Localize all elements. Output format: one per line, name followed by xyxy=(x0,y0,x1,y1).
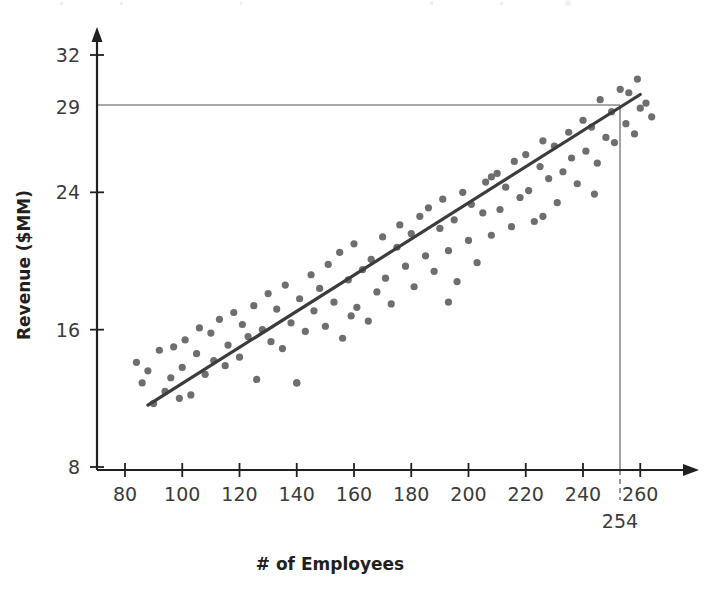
scatter-point xyxy=(488,232,495,239)
x-tick-label: 160 xyxy=(336,483,372,505)
scatter-point xyxy=(531,218,538,225)
scatter-point xyxy=(516,194,523,201)
scatter-point xyxy=(451,216,458,223)
scatter-point xyxy=(193,350,200,357)
x-tick-label: 140 xyxy=(279,483,315,505)
trend-line-segment xyxy=(148,94,640,405)
scatter-point xyxy=(545,175,552,182)
x-tick-label: 80 xyxy=(113,483,137,505)
scatter-point xyxy=(182,336,189,343)
scatter-point xyxy=(336,249,343,256)
page-scan-artifact xyxy=(60,0,571,6)
scatter-point xyxy=(602,134,609,141)
scatter-point xyxy=(617,86,624,93)
scatter-point xyxy=(282,281,289,288)
y-axis-arrowhead xyxy=(92,27,103,42)
scatter-point xyxy=(176,395,183,402)
scatter-point xyxy=(250,302,257,309)
y-tick-label: 24 xyxy=(56,181,80,203)
trend-line xyxy=(148,94,640,405)
scatter-point xyxy=(631,130,638,137)
scatter-point xyxy=(365,317,372,324)
scatter-point xyxy=(559,168,566,175)
scatter-point xyxy=(216,316,223,323)
x-tick-label: 180 xyxy=(393,483,429,505)
scatter-point xyxy=(196,324,203,331)
scatter-point xyxy=(382,275,389,282)
scatter-point xyxy=(479,209,486,216)
scatter-point xyxy=(465,237,472,244)
scatter-point xyxy=(396,221,403,228)
scatter-point xyxy=(591,190,598,197)
scatter-chart: 816242932 80100120140160180200220240260 … xyxy=(0,0,712,595)
scatter-point xyxy=(539,137,546,144)
scatter-point xyxy=(388,300,395,307)
employee-guide-label: 254 xyxy=(602,510,638,532)
scatter-point xyxy=(574,180,581,187)
scatter-point xyxy=(339,335,346,342)
scatter-point xyxy=(579,117,586,124)
scatter-point xyxy=(287,319,294,326)
scatter-point xyxy=(445,247,452,254)
x-tick-label: 240 xyxy=(565,483,601,505)
y-tick-label: 8 xyxy=(68,456,80,478)
scatter-point xyxy=(511,158,518,165)
y-tick-label: 16 xyxy=(56,319,80,341)
scatter-point xyxy=(594,160,601,167)
scatter-point xyxy=(508,223,515,230)
scatter-point xyxy=(488,173,495,180)
x-tick-label: 220 xyxy=(508,483,544,505)
scatter-point xyxy=(373,288,380,295)
scatter-point xyxy=(302,328,309,335)
scatter-point xyxy=(222,362,229,369)
scatter-point xyxy=(554,199,561,206)
scatter-point xyxy=(307,271,314,278)
scatter-point xyxy=(156,347,163,354)
scatter-point xyxy=(625,89,632,96)
scatter-point xyxy=(253,376,260,383)
scatter-point xyxy=(353,304,360,311)
axes xyxy=(92,27,700,476)
scatter-point xyxy=(316,285,323,292)
scatter-point xyxy=(431,268,438,275)
scatter-point xyxy=(416,213,423,220)
scatter-point xyxy=(642,99,649,106)
scatter-point xyxy=(379,233,386,240)
scatter-point xyxy=(502,184,509,191)
x-tick-label: 100 xyxy=(164,483,200,505)
scatter-point xyxy=(402,263,409,270)
scatter-point xyxy=(350,240,357,247)
scatter-point xyxy=(296,295,303,302)
scatter-point xyxy=(536,163,543,170)
chart-canvas: 816242932 80100120140160180200220240260 … xyxy=(0,0,712,595)
scatter-point xyxy=(144,367,151,374)
x-tick-label: 260 xyxy=(622,483,658,505)
scatter-point xyxy=(265,290,272,297)
x-tick-label: 120 xyxy=(221,483,257,505)
scatter-point xyxy=(133,359,140,366)
scatter-point xyxy=(597,96,604,103)
scatter-point xyxy=(179,364,186,371)
scatter-point xyxy=(565,129,572,136)
y-tick-label: 32 xyxy=(56,44,80,66)
scatter-point xyxy=(539,213,546,220)
scatter-point xyxy=(445,299,452,306)
scatter-point xyxy=(207,330,214,337)
scatter-point xyxy=(496,206,503,213)
scatter-point xyxy=(425,204,432,211)
scatter-point xyxy=(139,379,146,386)
scatter-point xyxy=(348,312,355,319)
scatter-point xyxy=(439,196,446,203)
scatter-point xyxy=(453,278,460,285)
scatter-point xyxy=(637,105,644,112)
scatter-point xyxy=(525,187,532,194)
scatter-point xyxy=(568,154,575,161)
scatter-point xyxy=(522,151,529,158)
scatter-point xyxy=(322,323,329,330)
scatter-point xyxy=(436,225,443,232)
scatter-point xyxy=(267,338,274,345)
x-tick-label: 200 xyxy=(450,483,486,505)
scatter-point xyxy=(236,354,243,361)
y-axis-title: Revenue ($MM) xyxy=(14,190,34,340)
scatter-point xyxy=(611,139,618,146)
